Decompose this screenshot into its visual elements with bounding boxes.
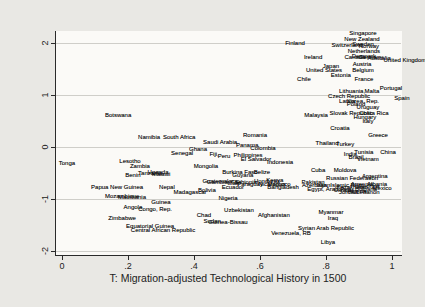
y-tick-label: 1 (40, 88, 50, 102)
country-label: Ireland (304, 54, 322, 60)
country-label: Guinea (151, 199, 170, 205)
country-label: Uganda (147, 169, 168, 175)
country-label: Papua New Guinea (91, 184, 143, 190)
country-label: Spain (394, 95, 409, 101)
y-tick-mark (51, 43, 55, 44)
governance-vs-technology-scatter-figure: 0.2.4.6.81210-1-2 SingaporeNew ZealandFi… (0, 0, 425, 307)
country-label: Guinea-Bissau (208, 219, 247, 225)
country-label: Belize (254, 169, 270, 175)
country-label: Venezuela, RB (271, 230, 311, 236)
gridline-y--2 (55, 251, 401, 252)
country-label: Senegal (171, 150, 193, 156)
x-tick-mark (128, 256, 129, 260)
country-label: Chile (297, 76, 311, 82)
country-label: Nepal (159, 184, 175, 190)
x-axis-line (55, 255, 402, 256)
country-label: Indonesia (267, 159, 293, 165)
x-tick-mark (194, 256, 195, 260)
gridline-y-0 (55, 147, 401, 148)
x-tick-label: .8 (322, 261, 330, 271)
x-tick-mark (62, 256, 63, 260)
country-label: Argentina (362, 173, 388, 179)
country-label: Nigeria (218, 195, 237, 201)
x-tick-mark (326, 256, 327, 260)
country-label: Vietnam (357, 156, 379, 162)
country-label: Moldova (334, 167, 357, 173)
x-tick-label: .2 (124, 261, 132, 271)
country-label: Peru (218, 153, 231, 159)
country-label: Namibia (138, 134, 160, 140)
country-label: Central African Republic (131, 227, 195, 233)
country-label: Tonga (59, 160, 75, 166)
country-label: Malaysia (304, 112, 328, 118)
country-label: Belgium (352, 67, 374, 73)
country-label: China (380, 149, 396, 155)
country-label: Estonia (331, 72, 351, 78)
x-tick-mark (260, 256, 261, 260)
country-label: Italy (362, 118, 373, 124)
y-tick-label: -2 (40, 244, 50, 258)
x-tick-label: 1 (389, 261, 394, 271)
country-label: Mexico (373, 185, 392, 191)
country-label: Bangladesh (267, 184, 299, 190)
country-label: France (355, 76, 374, 82)
y-tick-label: 0 (40, 140, 50, 154)
x-tick-label: 0 (59, 261, 64, 271)
country-label: Colombia (250, 145, 275, 151)
y-axis-line (55, 31, 56, 256)
country-label: Congo, Rep. (138, 206, 172, 212)
country-label: Libya (321, 239, 335, 245)
x-tick-mark (392, 256, 393, 260)
country-label: Saudi Arabia (203, 139, 237, 145)
y-tick-mark (51, 199, 55, 200)
y-tick-mark (51, 147, 55, 148)
country-label: Iraq (328, 215, 338, 221)
country-label: Bolivia (198, 187, 216, 193)
country-label: Guyana (232, 172, 253, 178)
y-tick-label: -1 (40, 192, 50, 206)
country-label: United Kingdom (384, 57, 425, 63)
y-tick-label: 2 (40, 36, 50, 50)
country-label: Cuba (311, 167, 325, 173)
country-label: Zimbabwe (108, 215, 136, 221)
country-label: Romania (243, 132, 267, 138)
country-label: Botswana (105, 112, 131, 118)
country-label: Mauritania (118, 194, 146, 200)
country-label: Mongolia (194, 163, 218, 169)
x-tick-label: .6 (256, 261, 264, 271)
country-label: Uzbekistan (224, 207, 254, 213)
country-label: Ecuador (222, 184, 244, 190)
x-tick-label: .4 (190, 261, 198, 271)
country-label: South Africa (163, 134, 195, 140)
country-label: Greece (368, 132, 388, 138)
country-label: Croatia (330, 125, 349, 131)
y-tick-mark (51, 251, 55, 252)
x-axis-title: T: Migration-adjusted Technological Hist… (110, 272, 347, 284)
country-label: Afghanistan (258, 212, 290, 218)
country-label: Portugal (380, 85, 402, 91)
country-label: Finland (285, 40, 305, 46)
y-tick-mark (51, 95, 55, 96)
country-label: Turkey (336, 141, 354, 147)
